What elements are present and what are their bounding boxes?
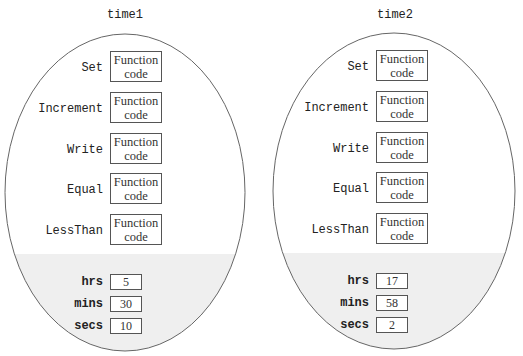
data-label-hrs: hrs	[13, 275, 103, 289]
object-title: time2	[345, 8, 445, 22]
code-line: code	[124, 230, 148, 244]
function-label-set: Set	[279, 60, 369, 74]
function-label-equal: Equal	[279, 182, 369, 196]
code-line: Function	[114, 216, 158, 230]
code-line: Function	[380, 134, 424, 148]
code-line: Function	[380, 174, 424, 188]
code-line: code	[124, 149, 148, 163]
function-label-write: Write	[13, 143, 103, 157]
data-value-secs: 10	[110, 318, 142, 334]
data-value-hrs: 17	[376, 273, 408, 289]
function-label-lessthan: LessThan	[13, 224, 103, 238]
function-label-set: Set	[13, 61, 103, 75]
code-line: code	[390, 148, 414, 162]
code-line: Function	[114, 175, 158, 189]
data-label-hrs: hrs	[279, 274, 369, 288]
function-code-box: Functioncode	[110, 51, 162, 82]
code-line: code	[124, 108, 148, 122]
data-label-mins: mins	[279, 296, 369, 310]
function-label-increment: Increment	[279, 101, 369, 115]
data-value-hrs: 5	[110, 274, 142, 290]
function-code-box: Functioncode	[376, 50, 428, 81]
function-label-increment: Increment	[13, 102, 103, 116]
function-code-box: Functioncode	[110, 133, 162, 164]
code-line: code	[124, 189, 148, 203]
function-label-lessthan: LessThan	[279, 223, 369, 237]
function-code-box: Functioncode	[110, 92, 162, 123]
code-line: Function	[114, 94, 158, 108]
data-value-mins: 58	[376, 295, 408, 311]
code-line: code	[390, 229, 414, 243]
function-code-box: Functioncode	[110, 173, 162, 204]
code-line: Function	[380, 93, 424, 107]
data-value-mins: 30	[110, 296, 142, 312]
code-line: code	[124, 67, 148, 81]
object-title: time1	[75, 8, 175, 22]
data-label-secs: secs	[13, 319, 103, 333]
code-line: Function	[114, 53, 158, 67]
code-line: Function	[380, 215, 424, 229]
data-label-secs: secs	[279, 318, 369, 332]
function-label-write: Write	[279, 142, 369, 156]
function-code-box: Functioncode	[376, 91, 428, 122]
function-code-box: Functioncode	[376, 132, 428, 163]
code-line: code	[390, 66, 414, 80]
function-code-box: Functioncode	[376, 172, 428, 203]
function-label-equal: Equal	[13, 183, 103, 197]
function-code-box: Functioncode	[110, 214, 162, 245]
code-line: code	[390, 188, 414, 202]
data-label-mins: mins	[13, 297, 103, 311]
code-line: code	[390, 107, 414, 121]
code-line: Function	[380, 52, 424, 66]
function-code-box: Functioncode	[376, 213, 428, 244]
code-line: Function	[114, 135, 158, 149]
data-value-secs: 2	[376, 317, 408, 333]
